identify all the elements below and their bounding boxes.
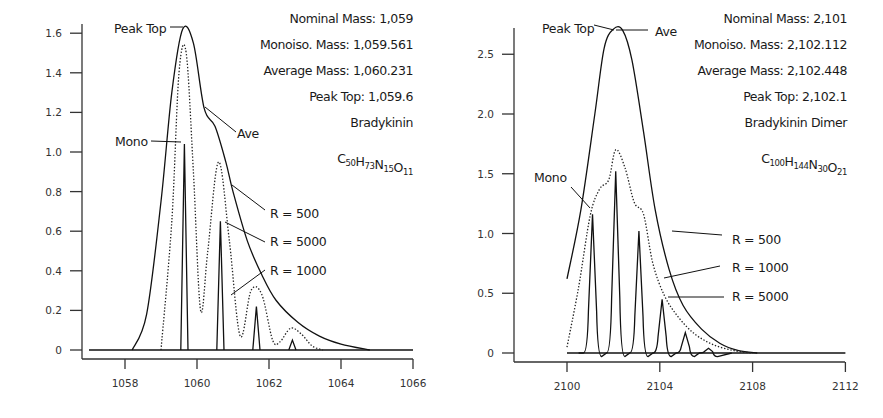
annotation-ave: Ave (655, 24, 678, 39)
annotation-mono: Mono (534, 170, 567, 185)
y-tick-label: 0 (487, 347, 494, 359)
info-line: Bradykinin (350, 115, 413, 130)
y-tick-label: 1.2 (45, 106, 62, 118)
x-tick-label: 2112 (832, 380, 859, 392)
x-tick-label: 1066 (400, 377, 427, 389)
info-line: Nominal Mass: 2,101 (723, 11, 847, 26)
annotation-peak-top: Peak Top (114, 21, 167, 36)
y-tick-label: 1.6 (45, 27, 62, 39)
isotope-distribution-charts: 00.20.40.60.81.01.21.41.6105810601062106… (0, 0, 883, 418)
annotation-mono: Mono (115, 134, 148, 149)
leader-line (672, 231, 722, 235)
x-tick-label: 1062 (256, 377, 283, 389)
y-tick-label: 0 (55, 344, 62, 356)
chemical-formula: C100H144N30O21 (761, 151, 847, 177)
leader-line (571, 187, 590, 208)
x-tick-label: 1058 (112, 377, 139, 389)
annotation-r-5000: R = 5000 (732, 289, 789, 304)
y-tick-label: 0.8 (45, 186, 62, 198)
series-r-5000 (579, 171, 732, 356)
info-line: Peak Top: 2,102.1 (743, 89, 847, 104)
y-tick-label: 1.4 (45, 67, 62, 79)
y-tick-label: 0.6 (45, 225, 62, 237)
y-tick-label: 2.5 (477, 48, 494, 60)
info-line: Nominal Mass: 1,059 (289, 11, 413, 26)
leader-line (151, 141, 181, 142)
y-tick-label: 1.0 (477, 228, 494, 240)
annotation-ave: Ave (237, 126, 260, 141)
annotation-peak-top: Peak Top (542, 21, 595, 36)
info-line: Peak Top: 1,059.6 (309, 89, 413, 104)
annotation-r-1000: R = 1000 (270, 263, 327, 278)
y-tick-label: 2.0 (477, 108, 494, 120)
bradykinin-chart: 00.20.40.60.81.01.21.41.6105810601062106… (45, 11, 426, 389)
annotation-r-500: R = 500 (270, 206, 319, 221)
info-line: Bradykinin Dimer (745, 115, 849, 130)
x-tick-label: 2100 (554, 380, 581, 392)
bradykinin-dimer-chart: 00.51.01.52.02.52100210421082112Nominal … (477, 11, 858, 392)
info-line: Monoiso. Mass: 2,102.112 (694, 37, 847, 52)
annotation-r-5000: R = 5000 (270, 234, 327, 249)
y-tick-label: 1.0 (45, 146, 62, 158)
annotation-r-1000: R = 1000 (732, 260, 789, 275)
x-tick-label: 2104 (646, 380, 673, 392)
chemical-formula: C50H73N15O11 (337, 151, 413, 177)
info-line: Monoiso. Mass: 1,059.561 (260, 37, 413, 52)
y-tick-label: 1.5 (477, 168, 494, 180)
info-line: Average Mass: 2,102.448 (698, 63, 848, 78)
y-tick-label: 0.5 (477, 287, 494, 299)
x-tick-label: 2108 (739, 380, 766, 392)
y-tick-label: 0.4 (45, 265, 62, 277)
info-line: Average Mass: 1,060.231 (264, 63, 413, 78)
annotation-r-500: R = 500 (732, 232, 781, 247)
x-tick-label: 1064 (328, 377, 355, 389)
leader-line (594, 25, 614, 30)
leader-line (664, 266, 720, 278)
y-tick-label: 0.2 (45, 304, 62, 316)
leader-line (225, 222, 265, 242)
x-tick-label: 1060 (184, 377, 211, 389)
